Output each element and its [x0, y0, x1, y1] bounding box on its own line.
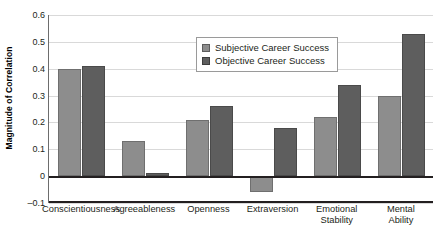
x-axis-line: [49, 201, 433, 203]
y-axis-tick-label: 0.3: [32, 91, 45, 101]
bar: [338, 85, 361, 176]
bar: [314, 117, 337, 176]
bar: [122, 141, 145, 176]
bar: [82, 66, 105, 176]
bar: [186, 120, 209, 176]
bar: [274, 128, 297, 176]
zero-baseline: [49, 176, 433, 178]
bar: [378, 96, 401, 177]
legend-item: Subjective Career Success: [202, 41, 329, 54]
bar: [402, 34, 425, 176]
legend-item-label: Objective Career Success: [215, 55, 325, 66]
x-axis-tick-labels: ConscientiousnessAgreeablenessOpennessEx…: [48, 204, 433, 234]
legend-swatch-icon: [202, 44, 210, 52]
y-axis-tick-labels: 0.60.50.40.30.20.10–0.1: [18, 15, 48, 203]
bar: [210, 106, 233, 176]
y-axis-tick-label: 0: [40, 171, 45, 181]
y-axis-tick-label: 0.1: [32, 144, 45, 154]
y-axis-tick-label: 0.4: [32, 64, 45, 74]
bar: [250, 176, 273, 192]
y-axis-title: Magnitude of Correlation: [0, 0, 18, 196]
x-axis-tick-label: MentalAbility: [363, 204, 439, 226]
legend-item-label: Subjective Career Success: [215, 42, 329, 53]
y-axis-title-text: Magnitude of Correlation: [4, 47, 14, 150]
y-axis-tick-label: 0.2: [32, 117, 45, 127]
y-axis-tick-label: 0.6: [32, 10, 45, 20]
y-axis-tick-label: 0.5: [32, 37, 45, 47]
legend-item: Objective Career Success: [202, 54, 329, 67]
legend: Subjective Career SuccessObjective Caree…: [196, 37, 338, 72]
legend-swatch-icon: [202, 57, 210, 65]
bar-chart: Magnitude of Correlation 0.60.50.40.30.2…: [0, 0, 440, 234]
bar: [58, 69, 81, 176]
plot-area: Subjective Career SuccessObjective Caree…: [48, 15, 433, 203]
